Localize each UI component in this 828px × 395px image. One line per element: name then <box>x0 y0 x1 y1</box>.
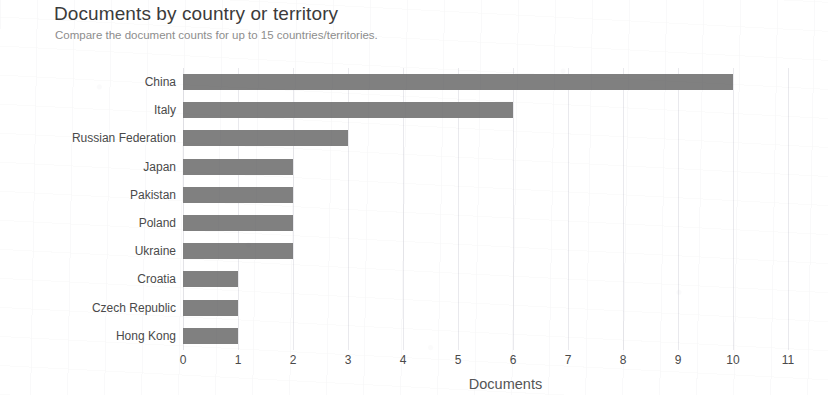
x-axis-tick-8: 8 <box>603 353 643 367</box>
x-axis-tick-11: 11 <box>768 353 808 367</box>
bar-czech-republic[interactable] <box>183 300 238 316</box>
y-axis-label-czech-republic: Czech Republic <box>0 294 176 322</box>
x-axis-tick-9: 9 <box>658 353 698 367</box>
bar-hong-kong[interactable] <box>183 328 238 344</box>
documents-by-country-chart-card: Documents by country or territory Compar… <box>0 0 828 395</box>
bar-pakistan[interactable] <box>183 187 293 203</box>
bar-russian-federation[interactable] <box>183 130 348 146</box>
y-axis-label-pakistan: Pakistan <box>0 181 176 209</box>
x-axis-tick-2: 2 <box>273 353 313 367</box>
bar-row <box>183 237 788 265</box>
x-axis-tick-4: 4 <box>383 353 423 367</box>
y-axis-label-hong-kong: Hong Kong <box>0 322 176 350</box>
bar-poland[interactable] <box>183 215 293 231</box>
x-axis-tick-0: 0 <box>163 353 203 367</box>
y-axis-label-ukraine: Ukraine <box>0 237 176 265</box>
chart-subtitle: Compare the document counts for up to 15… <box>55 29 378 41</box>
bar-ukraine[interactable] <box>183 243 293 259</box>
bar-row <box>183 68 788 96</box>
bar-croatia[interactable] <box>183 271 238 287</box>
x-axis-tick-7: 7 <box>548 353 588 367</box>
x-axis-tick-3: 3 <box>328 353 368 367</box>
x-axis-tick-1: 1 <box>218 353 258 367</box>
chart-plot-area: ChinaItalyRussian FederationJapanPakista… <box>183 68 788 350</box>
x-axis-tick-10: 10 <box>713 353 753 367</box>
y-axis-label-russian-federation: Russian Federation <box>0 124 176 152</box>
bar-row <box>183 181 788 209</box>
x-axis-tick-6: 6 <box>493 353 533 367</box>
gridline-x-11 <box>788 68 789 350</box>
bar-row <box>183 322 788 350</box>
bar-row <box>183 124 788 152</box>
y-axis-label-poland: Poland <box>0 209 176 237</box>
x-axis-title: Documents <box>183 376 828 392</box>
bar-row <box>183 294 788 322</box>
bar-row <box>183 209 788 237</box>
bar-row <box>183 96 788 124</box>
bar-row <box>183 265 788 293</box>
y-axis-label-china: China <box>0 68 176 96</box>
x-axis-tick-5: 5 <box>438 353 478 367</box>
chart-title: Documents by country or territory <box>54 3 338 25</box>
y-axis-label-japan: Japan <box>0 153 176 181</box>
y-axis-label-italy: Italy <box>0 96 176 124</box>
y-axis-label-croatia: Croatia <box>0 265 176 293</box>
bar-japan[interactable] <box>183 159 293 175</box>
bar-row <box>183 153 788 181</box>
bar-china[interactable] <box>183 74 733 90</box>
bar-italy[interactable] <box>183 102 513 118</box>
